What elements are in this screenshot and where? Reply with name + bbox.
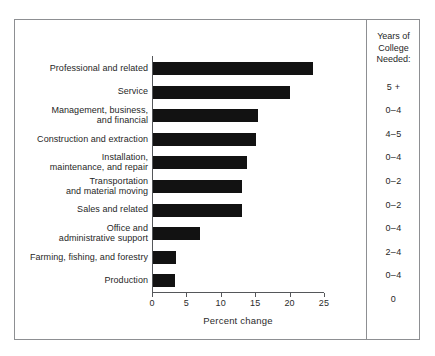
x-axis-tick <box>152 293 153 297</box>
x-axis-tick <box>255 293 256 297</box>
category-label: Transportationand material moving <box>8 176 148 197</box>
bar <box>153 274 175 287</box>
years-of-college-value: 0–4 <box>367 270 420 280</box>
x-axis-tick-label: 10 <box>216 298 226 308</box>
category-label: Professional and related <box>8 63 148 74</box>
category-label: Service <box>8 86 148 97</box>
years-of-college-header-line: Needed: <box>367 54 420 66</box>
bar <box>153 180 242 193</box>
x-axis-tick-label: 25 <box>319 298 329 308</box>
years-of-college-column: Years ofCollegeNeeded: 5 +0–44–50–40–20–… <box>367 19 420 340</box>
category-label-line: Management, business, <box>8 105 148 116</box>
x-axis-tick-label: 20 <box>284 298 294 308</box>
years-of-college-value: 0–4 <box>367 152 420 162</box>
category-label-line: Professional and related <box>8 63 148 74</box>
x-axis-tick <box>221 293 222 297</box>
bar <box>153 86 290 99</box>
category-label-line: and material moving <box>8 186 148 197</box>
bar <box>153 62 313 75</box>
bar <box>153 133 256 146</box>
category-label-line: Transportation <box>8 176 148 187</box>
category-label: Installation,maintenance, and repair <box>8 152 148 173</box>
category-label-line: Production <box>8 275 148 286</box>
category-label-line: maintenance, and repair <box>8 162 148 173</box>
category-label: Management, business,and financial <box>8 105 148 126</box>
category-label: Production <box>8 275 148 286</box>
bar-chart-figure: 0510152025 Percent change Professional a… <box>0 0 435 356</box>
years-of-college-header: Years ofCollegeNeeded: <box>367 31 420 66</box>
years-of-college-value: 0–4 <box>367 223 420 233</box>
x-axis-tick-label: 15 <box>250 298 260 308</box>
bar <box>153 109 258 122</box>
x-axis-tick-label: 5 <box>184 298 189 308</box>
years-of-college-value: 2–4 <box>367 247 420 257</box>
bar <box>153 227 200 240</box>
bar <box>153 204 242 217</box>
category-label: Office andadministrative support <box>8 223 148 244</box>
years-of-college-header-line: Years of <box>367 31 420 43</box>
years-of-college-header-line: College <box>367 43 420 55</box>
x-axis-tick <box>186 293 187 297</box>
years-of-college-value: 4–5 <box>367 129 420 139</box>
years-of-college-value: 0–4 <box>367 105 420 115</box>
bar <box>153 156 247 169</box>
x-axis-title: Percent change <box>152 315 324 326</box>
years-of-college-value: 5 + <box>367 82 420 92</box>
years-of-college-value: 0–2 <box>367 176 420 186</box>
category-label-line: Sales and related <box>8 204 148 215</box>
category-label-line: and financial <box>8 115 148 126</box>
category-label-line: administrative support <box>8 233 148 244</box>
category-label: Farming, fishing, and forestry <box>8 252 148 263</box>
category-label-line: Service <box>8 86 148 97</box>
category-label-line: Construction and extraction <box>8 134 148 145</box>
x-axis-tick <box>290 293 291 297</box>
category-label: Sales and related <box>8 204 148 215</box>
years-of-college-value: 0–2 <box>367 200 420 210</box>
category-label-line: Farming, fishing, and forestry <box>8 252 148 263</box>
x-axis-tick <box>324 293 325 297</box>
category-label-line: Office and <box>8 223 148 234</box>
years-of-college-value: 0 <box>367 294 420 304</box>
category-labels: Professional and relatedServiceManagemen… <box>8 0 148 356</box>
x-axis-tick-label: 0 <box>149 298 154 308</box>
bar <box>153 251 176 264</box>
x-axis-line <box>152 292 324 293</box>
category-label: Construction and extraction <box>8 134 148 145</box>
category-label-line: Installation, <box>8 152 148 163</box>
